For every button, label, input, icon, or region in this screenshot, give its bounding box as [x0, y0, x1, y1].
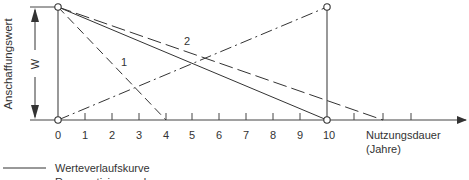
y-axis-label: Anschaffungswert — [2, 18, 14, 110]
point-top-left — [55, 4, 61, 10]
legend: Werteverlaufskurve Remonetisierungskurve — [3, 162, 171, 180]
x-axis — [30, 113, 466, 120]
svg-text:7: 7 — [243, 129, 249, 141]
svg-text:6: 6 — [216, 129, 222, 141]
curve-label-1: 1 — [121, 56, 127, 68]
point-top-right — [324, 4, 330, 10]
legend-label-remonetisierungskurve: Remonetisierungskurve — [55, 176, 171, 180]
point-year-10 — [324, 117, 330, 123]
point-origin — [55, 117, 61, 123]
curve-label-2: 2 — [184, 35, 190, 47]
svg-text:0: 0 — [55, 129, 61, 141]
svg-text:10: 10 — [323, 129, 335, 141]
legend-label-werteverlaufskurve: Werteverlaufskurve — [55, 162, 150, 174]
svg-text:9: 9 — [297, 129, 303, 141]
svg-text:5: 5 — [189, 129, 195, 141]
curve-1-line — [58, 7, 166, 120]
svg-text:4: 4 — [163, 129, 169, 141]
x-axis-unit-label: (Jahre) — [366, 143, 401, 155]
x-axis-label: Nutzungsdauer — [366, 129, 441, 141]
svg-text:2: 2 — [109, 129, 115, 141]
dimension-label-w: W — [29, 58, 41, 69]
curve-2-line — [58, 7, 383, 120]
svg-text:3: 3 — [136, 129, 142, 141]
svg-text:8: 8 — [270, 129, 276, 141]
x-tick-labels: 0 1 2 3 4 5 6 7 8 9 10 — [55, 129, 335, 141]
svg-text:1: 1 — [82, 129, 88, 141]
depreciation-diagram: Anschaffungswert W 1 2 0 1 2 3 4 5 6 7 8… — [0, 0, 469, 180]
